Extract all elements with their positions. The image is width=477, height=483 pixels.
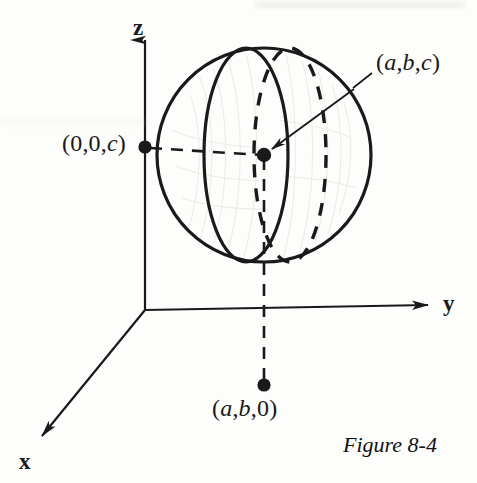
sphere-front-meridian — [204, 48, 288, 262]
z-axis-label: z — [133, 16, 143, 39]
figure-caption: Figure 8-4 — [343, 434, 437, 456]
point-marker-abc — [257, 148, 271, 162]
point-marker-ab0 — [257, 378, 270, 391]
point-marker-00c — [138, 140, 151, 153]
leader-line-abc — [353, 73, 372, 88]
connector-z-to-center — [150, 148, 262, 155]
point-label-ab0: (a,b,0) — [212, 396, 277, 420]
point-label-abc: (a,b,c) — [376, 50, 440, 74]
x-axis — [42, 310, 145, 436]
y-axis-label: y — [443, 292, 455, 315]
y-axis — [145, 305, 428, 310]
figure-8-4: (a,b,c) (0,0,c) (a,b,0) z y x Figure 8-4 — [0, 0, 477, 483]
x-axis-label: x — [19, 450, 31, 473]
point-label-00c: (0,0,c) — [62, 131, 126, 155]
